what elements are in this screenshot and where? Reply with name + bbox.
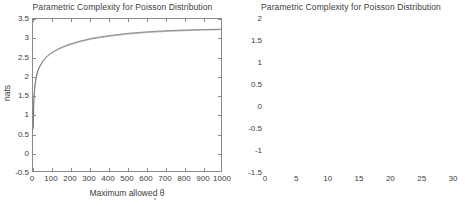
x-axis-tick xyxy=(166,19,167,22)
x-axis-tick-label: 600 xyxy=(139,174,152,183)
x-axis-tick xyxy=(90,19,91,22)
x-axis-tick-label: 300 xyxy=(82,174,95,183)
x-axis-tick xyxy=(185,19,186,22)
y-axis-tick-label: 0 xyxy=(234,102,262,111)
chart-title-right: Parametric Complexity for Poisson Distri… xyxy=(233,2,465,12)
y-axis-tick xyxy=(33,38,36,39)
y-axis-tick-label: 0.5 xyxy=(234,80,262,89)
y-axis-tick xyxy=(218,115,221,116)
x-axis-tick-label: 800 xyxy=(177,174,190,183)
y-axis-tick xyxy=(33,135,36,136)
y-axis-tick xyxy=(218,38,221,39)
x-axis-tick-label: 5 xyxy=(294,174,298,183)
x-axis-tick xyxy=(109,19,110,22)
y-axis-label-left: nats xyxy=(2,73,12,113)
x-axis-tick xyxy=(71,19,72,22)
y-axis-tick-label: -1.5 xyxy=(234,168,262,177)
x-axis-tick-label: 1000 xyxy=(213,174,231,183)
x-axis-tick-label: 400 xyxy=(101,174,114,183)
x-axis-tick xyxy=(90,168,91,171)
x-axis-label-left: Maximum allowed θ xyxy=(32,188,222,198)
y-axis-tick xyxy=(218,96,221,97)
x-axis-tick-label: 900 xyxy=(196,174,209,183)
x-axis-tick xyxy=(33,168,34,171)
x-axis-tick xyxy=(166,168,167,171)
x-axis-tick xyxy=(128,19,129,22)
x-axis-tick xyxy=(128,168,129,171)
x-axis-tick-label: 10 xyxy=(323,174,332,183)
y-axis-tick-label: 3 xyxy=(1,33,29,42)
x-axis-tick xyxy=(204,168,205,171)
x-axis-tick xyxy=(147,168,148,171)
x-axis-tick xyxy=(109,168,110,171)
y-axis-tick xyxy=(33,96,36,97)
chart-title-left: Parametric Complexity for Poisson Distri… xyxy=(0,2,239,12)
x-axis-tick-label: 20 xyxy=(386,174,395,183)
y-axis-tick xyxy=(33,19,36,20)
plot-area-left xyxy=(32,18,222,172)
y-axis-tick-label: 1.5 xyxy=(234,36,262,45)
y-axis-tick-label: -0.5 xyxy=(234,124,262,133)
x-axis-tick xyxy=(52,19,53,22)
x-axis-tick-label: 200 xyxy=(63,174,76,183)
x-axis-tick xyxy=(185,168,186,171)
x-axis-tick-label: 500 xyxy=(120,174,133,183)
y-axis-tick-label: 3.5 xyxy=(1,14,29,23)
figure-container: Parametric Complexity for Poisson Distri… xyxy=(0,0,465,206)
plot-curves-left xyxy=(33,19,221,171)
x-axis-tick-label: 25 xyxy=(417,174,426,183)
x-axis-tick xyxy=(147,19,148,22)
x-axis-tick-label: 0 xyxy=(30,174,34,183)
x-axis-tick-label: 30 xyxy=(449,174,458,183)
x-axis-tick-label: 700 xyxy=(158,174,171,183)
y-axis-tick xyxy=(33,154,36,155)
y-axis-tick xyxy=(218,154,221,155)
y-axis-tick xyxy=(33,58,36,59)
y-axis-tick-label: 1 xyxy=(234,58,262,67)
x-axis-tick-label: 15 xyxy=(355,174,364,183)
y-axis-tick xyxy=(218,19,221,20)
y-axis-tick xyxy=(218,77,221,78)
y-axis-tick xyxy=(33,77,36,78)
x-axis-tick xyxy=(71,168,72,171)
y-axis-tick-label: -0.5 xyxy=(1,168,29,177)
y-axis-tick-label: 0 xyxy=(1,148,29,157)
chart-panel-left: Parametric Complexity for Poisson Distri… xyxy=(0,0,233,206)
y-axis-tick-label: 0.5 xyxy=(1,129,29,138)
chart-panel-right: Parametric Complexity for Poisson Distri… xyxy=(233,0,465,206)
x-axis-tick xyxy=(204,19,205,22)
y-axis-tick xyxy=(218,58,221,59)
curve-exact-left xyxy=(33,29,221,128)
curve-asymptotic-left xyxy=(33,30,221,130)
y-axis-tick xyxy=(218,135,221,136)
y-axis-tick-label: -1 xyxy=(234,146,262,155)
y-axis-tick-label: 2.5 xyxy=(1,52,29,61)
y-axis-tick-label: 2 xyxy=(234,14,262,23)
stray-artifact-dot xyxy=(154,198,156,200)
x-axis-tick xyxy=(52,168,53,171)
x-axis-tick-label: 0 xyxy=(263,174,267,183)
y-axis-tick xyxy=(33,115,36,116)
x-axis-tick-label: 100 xyxy=(44,174,57,183)
